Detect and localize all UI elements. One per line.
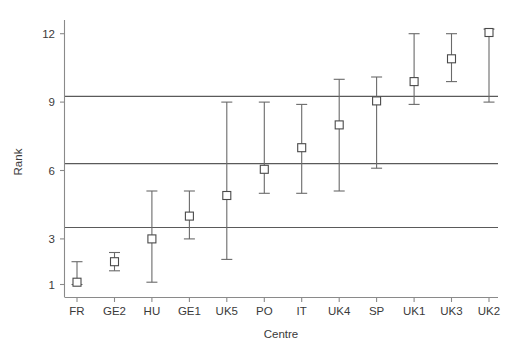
x-tick-label-SP: SP (369, 305, 385, 317)
y-tick-label-6: 6 (49, 165, 55, 177)
rank-by-centre-scatter-plot: 136912 FRGE2HUGE1UK5POITUK4SPUK1UK3UK2 R… (0, 0, 507, 351)
error-bar-UK5 (221, 102, 232, 259)
x-tick-label-UK1: UK1 (403, 305, 425, 317)
y-axis-title: Rank (12, 148, 24, 175)
error-bar-UK2 (484, 29, 495, 102)
data-point-UK5 (223, 192, 231, 200)
data-point-PO (260, 165, 268, 173)
data-point-SP (373, 97, 381, 105)
error-bars-group (72, 29, 495, 284)
error-bar-PO (259, 102, 270, 193)
y-tick-label-9: 9 (49, 96, 55, 108)
data-point-GE2 (111, 258, 119, 266)
x-axis-title: Centre (264, 328, 299, 340)
axes-group (65, 20, 499, 298)
x-tick-label-UK5: UK5 (216, 305, 238, 317)
data-point-UK2 (485, 29, 493, 37)
data-point-FR (73, 278, 81, 286)
error-bar-UK1 (409, 34, 420, 105)
data-point-UK1 (410, 78, 418, 86)
x-tick-label-FR: FR (69, 305, 84, 317)
y-tick-label-1: 1 (49, 279, 55, 291)
x-tick-label-GE1: GE1 (178, 305, 201, 317)
x-tick-label-GE2: GE2 (103, 305, 126, 317)
y-tick-label-3: 3 (49, 233, 55, 245)
reference-lines-group (65, 96, 498, 227)
x-tick-label-UK3: UK3 (440, 305, 462, 317)
data-point-IT (298, 144, 306, 152)
x-tick-label-IT: IT (297, 305, 307, 317)
data-point-GE1 (185, 212, 193, 220)
x-tick-label-HU: HU (144, 305, 161, 317)
data-point-UK4 (335, 121, 343, 129)
chart-figure: 136912 FRGE2HUGE1UK5POITUK4SPUK1UK3UK2 R… (0, 0, 507, 351)
y-tick-labels-group: 136912 (42, 28, 55, 291)
data-point-UK3 (448, 55, 456, 63)
data-point-HU (148, 235, 156, 243)
y-tick-label-12: 12 (42, 28, 55, 40)
x-tick-label-UK4: UK4 (328, 305, 351, 317)
x-tick-label-UK2: UK2 (478, 305, 500, 317)
x-tick-labels-group: FRGE2HUGE1UK5POITUK4SPUK1UK3UK2 (69, 305, 500, 317)
x-tick-label-PO: PO (256, 305, 273, 317)
error-bar-SP (371, 77, 382, 168)
markers-group (73, 29, 493, 287)
